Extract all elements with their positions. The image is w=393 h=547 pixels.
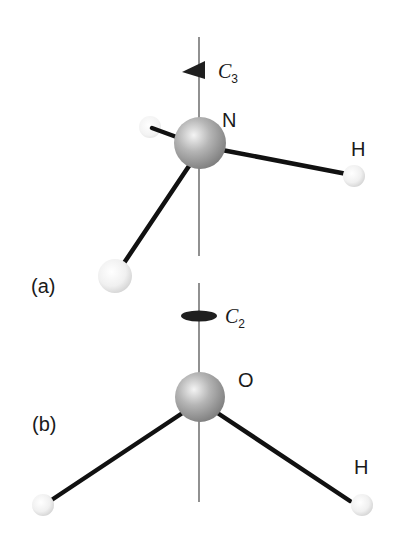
c2-symbol: C2	[225, 305, 245, 331]
c3-triangle-icon	[182, 61, 205, 79]
c3-symbol: C3	[218, 60, 238, 86]
oxygen-label: O	[238, 369, 254, 391]
bond-n-h-right	[222, 150, 352, 175]
symmetry-diagram: C3 N H (a) C2	[0, 0, 393, 547]
panel-b-label: (b)	[32, 413, 56, 435]
bond-n-h-front	[124, 160, 193, 263]
bond-o-h-left	[50, 412, 184, 501]
hydrogen-label-b: H	[354, 456, 368, 478]
hydrogen-label-a: H	[351, 138, 365, 160]
panel-a: C3 N H (a)	[31, 37, 365, 297]
panel-b: C2 O H (b)	[32, 283, 373, 516]
hydrogen-atom-left	[32, 494, 54, 516]
bond-o-h-right	[216, 412, 350, 501]
hydrogen-atom-right-b	[351, 494, 373, 516]
panel-a-label: (a)	[31, 275, 55, 297]
c2-ellipse-icon	[181, 311, 217, 322]
oxygen-atom	[175, 372, 225, 422]
hydrogen-atom-front	[98, 259, 132, 293]
hydrogen-atom-right	[343, 165, 365, 187]
nitrogen-atom	[174, 117, 226, 169]
nitrogen-label: N	[222, 109, 236, 131]
